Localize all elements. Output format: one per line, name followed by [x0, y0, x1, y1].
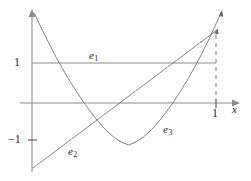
curve-e2-line — [33, 30, 217, 168]
y-tick-label-minus-one: −1 — [8, 133, 21, 145]
x-tick-label-one: 1 — [212, 107, 218, 119]
x-axis-label: x — [232, 104, 237, 115]
curve-label-e1-subscript: 1 — [94, 54, 98, 63]
curve-label-e1: e1 — [89, 50, 98, 63]
plot-svg — [0, 0, 251, 181]
curve-label-e2-subscript: 2 — [73, 150, 77, 159]
curve-label-e2: e2 — [68, 146, 77, 159]
y-axis-arrow-icon — [29, 9, 36, 17]
curve-e3-arrow-icon — [219, 10, 223, 17]
curve-label-e3: e3 — [163, 124, 172, 137]
curve-e3-parabola — [35, 12, 222, 146]
curve-label-e3-subscript: 3 — [168, 128, 172, 137]
y-tick-label-one: 1 — [14, 56, 20, 68]
figure-canvas: 1 −1 1 x e1 e2 e3 — [0, 0, 251, 181]
